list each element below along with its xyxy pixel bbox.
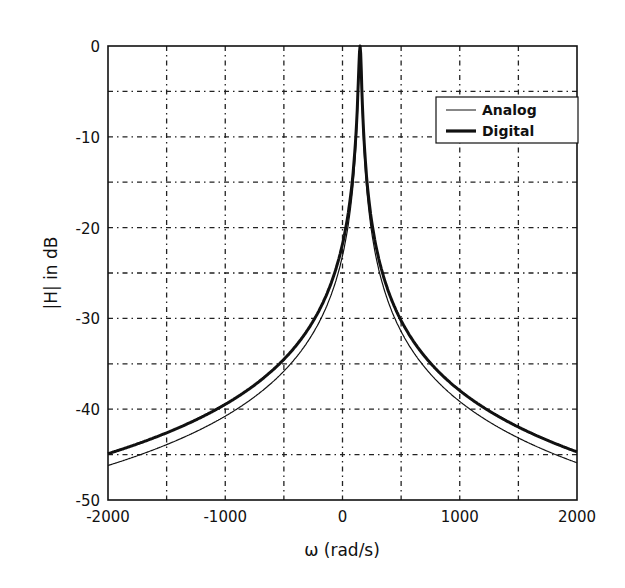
legend-digital-label: Digital xyxy=(482,123,534,139)
x-tick-label: 1000 xyxy=(441,508,479,526)
y-tick-label: -20 xyxy=(76,220,101,238)
x-tick-label: 0 xyxy=(338,508,348,526)
x-tick-labels: -2000-1000010002000 xyxy=(86,508,596,526)
y-tick-label: -40 xyxy=(76,401,101,419)
x-tick-label: -2000 xyxy=(86,508,130,526)
frequency-response-chart: 0-10-20-30-40-50 -2000-1000010002000 ω (… xyxy=(0,0,625,588)
y-tick-label: 0 xyxy=(90,38,100,56)
x-axis-label: ω (rad/s) xyxy=(304,540,380,560)
x-tick-label: -1000 xyxy=(203,508,247,526)
y-tick-label: -30 xyxy=(76,310,101,328)
y-tick-label: -10 xyxy=(76,129,101,147)
x-tick-label: 2000 xyxy=(558,508,596,526)
y-axis-label: |H| in dB xyxy=(41,237,61,310)
legend-analog-label: Analog xyxy=(482,102,537,118)
y-tick-labels: 0-10-20-30-40-50 xyxy=(76,38,101,510)
legend: Analog Digital xyxy=(436,97,578,143)
